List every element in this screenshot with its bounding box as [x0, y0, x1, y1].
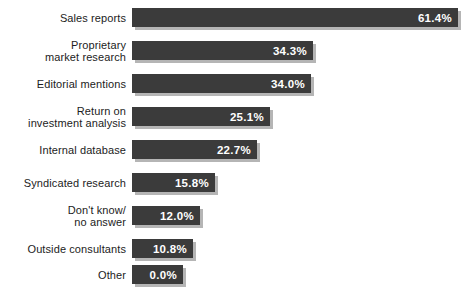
category-label: Editorial mentions: [0, 78, 126, 91]
bar-value-label: 12.0%: [160, 210, 194, 222]
bar-value-label: 34.0%: [271, 78, 305, 90]
bar[interactable]: 34.0%: [132, 74, 311, 93]
bar-value-label: 22.7%: [217, 144, 251, 156]
bar[interactable]: 34.3%: [132, 41, 313, 60]
category-label: Sales reports: [0, 12, 126, 25]
bar-value-label: 15.8%: [175, 177, 209, 189]
bar-value-label: 61.4%: [418, 12, 452, 24]
bar-area: 22.7%: [132, 139, 465, 161]
chart-row: Internal database 22.7%: [0, 139, 465, 161]
category-label: Outside consultants: [0, 243, 126, 256]
horizontal-bar-chart: Sales reports 61.4% Proprietary market r…: [0, 0, 465, 296]
bar[interactable]: 12.0%: [132, 206, 200, 225]
chart-row: Other 0.0%: [0, 264, 465, 286]
bar-value-label: 10.8%: [153, 243, 187, 255]
bar-area: 12.0%: [132, 205, 465, 227]
bar-area: 10.8%: [132, 238, 465, 260]
chart-row: Sales reports 61.4%: [0, 7, 465, 29]
bar-area: 61.4%: [132, 7, 465, 29]
bar-area: 34.0%: [132, 73, 465, 95]
bar[interactable]: 61.4%: [132, 8, 458, 27]
category-label: Internal database: [0, 144, 126, 157]
bar-value-label: 25.1%: [230, 111, 264, 123]
bar[interactable]: 25.1%: [132, 107, 270, 126]
chart-row: Return on investment analysis 25.1%: [0, 106, 465, 128]
bar-value-label: 34.3%: [273, 45, 307, 57]
chart-row: Proprietary market research 34.3%: [0, 40, 465, 62]
category-label: Other: [0, 269, 126, 282]
bar-area: 0.0%: [132, 264, 465, 286]
chart-row: Syndicated research 15.8%: [0, 172, 465, 194]
bar-area: 25.1%: [132, 106, 465, 128]
category-label: Don't know/ no answer: [0, 204, 126, 229]
bar[interactable]: 10.8%: [132, 239, 193, 258]
category-label: Proprietary market research: [0, 39, 126, 64]
bar[interactable]: 15.8%: [132, 173, 215, 192]
chart-row: Don't know/ no answer 12.0%: [0, 205, 465, 227]
bar-value-label: 0.0%: [150, 269, 177, 281]
bar[interactable]: 22.7%: [132, 140, 257, 159]
bar-area: 15.8%: [132, 172, 465, 194]
bar-area: 34.3%: [132, 40, 465, 62]
chart-row: Editorial mentions 34.0%: [0, 73, 465, 95]
category-label: Syndicated research: [0, 177, 126, 190]
category-label: Return on investment analysis: [0, 105, 126, 130]
chart-row: Outside consultants 10.8%: [0, 238, 465, 260]
bar[interactable]: 0.0%: [132, 265, 183, 284]
